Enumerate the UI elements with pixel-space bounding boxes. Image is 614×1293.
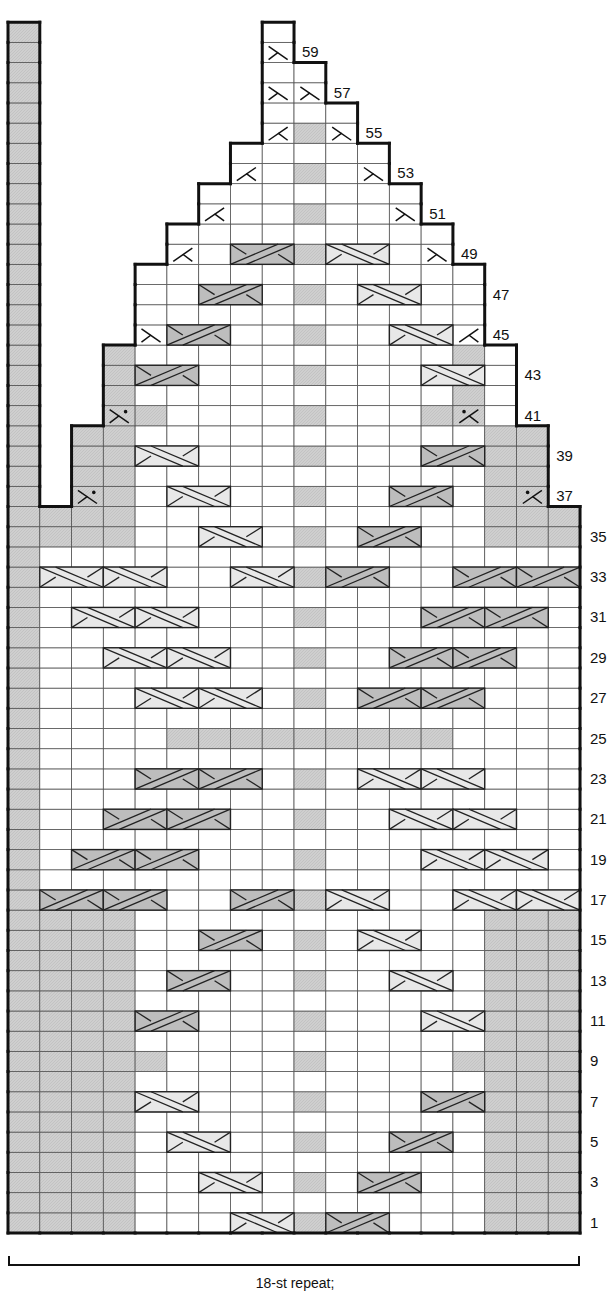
knit-cell bbox=[230, 345, 262, 365]
row-label-9: 9 bbox=[590, 1052, 598, 1069]
purl-cell bbox=[8, 930, 40, 950]
knit-cell bbox=[199, 345, 231, 365]
knit-cell bbox=[516, 688, 548, 708]
knit-cell bbox=[230, 224, 262, 244]
right-cross-cable-icon bbox=[326, 244, 390, 264]
knit-cell bbox=[358, 1031, 390, 1051]
knit-cell bbox=[516, 809, 548, 829]
knit-cell bbox=[40, 668, 72, 688]
knit-cell bbox=[262, 607, 294, 627]
purl-cell bbox=[8, 1132, 40, 1152]
knit-cell bbox=[262, 587, 294, 607]
purl-cell bbox=[8, 285, 40, 305]
row-label-5: 5 bbox=[590, 1133, 598, 1150]
purl-cell bbox=[294, 527, 326, 547]
knit-cell bbox=[262, 163, 294, 183]
left-cross-cable-icon bbox=[516, 567, 580, 587]
knit-cell bbox=[262, 507, 294, 527]
knit-cell bbox=[326, 628, 358, 648]
knit-cell bbox=[548, 587, 580, 607]
knit-cell bbox=[389, 1112, 421, 1132]
purl-cell bbox=[8, 991, 40, 1011]
purl-cell bbox=[103, 507, 135, 527]
left-cross-cable-icon bbox=[389, 648, 453, 668]
left-cross-cable-icon bbox=[135, 850, 199, 870]
knit-cell bbox=[135, 1132, 167, 1152]
knit-cell bbox=[294, 1193, 326, 1213]
purl-cell bbox=[40, 930, 72, 950]
knit-cell bbox=[389, 991, 421, 1011]
knit-cell bbox=[167, 345, 199, 365]
purl-cell bbox=[516, 1132, 548, 1152]
knit-cell bbox=[358, 486, 390, 506]
knit-cell bbox=[262, 991, 294, 1011]
knit-cell bbox=[167, 264, 199, 284]
knit-cell bbox=[135, 305, 167, 325]
left-cross-cable-icon bbox=[199, 769, 263, 789]
knit-cell bbox=[389, 224, 421, 244]
purl-cell bbox=[103, 950, 135, 970]
knit-cell bbox=[262, 769, 294, 789]
purl-cell bbox=[103, 345, 135, 365]
knit-cell bbox=[326, 446, 358, 466]
knit-cell bbox=[230, 1011, 262, 1031]
knit-cell bbox=[199, 264, 231, 284]
knit-cell bbox=[262, 950, 294, 970]
knit-cell bbox=[294, 1031, 326, 1051]
knit-cell bbox=[167, 1152, 199, 1172]
knit-cell bbox=[326, 688, 358, 708]
row-label-39: 39 bbox=[556, 447, 573, 464]
knit-cell bbox=[358, 668, 390, 688]
purl-cell bbox=[421, 729, 453, 749]
purl-cell bbox=[72, 1031, 104, 1051]
knit-cell bbox=[358, 749, 390, 769]
knit-cell bbox=[72, 587, 104, 607]
knit-cell bbox=[262, 385, 294, 405]
knit-cell bbox=[135, 1193, 167, 1213]
purl-cell bbox=[516, 1112, 548, 1132]
purl-cell bbox=[548, 1072, 580, 1092]
knit-cell bbox=[358, 426, 390, 446]
knit-cell bbox=[167, 870, 199, 890]
knit-cell bbox=[167, 1031, 199, 1051]
right-cross-cable-icon bbox=[453, 890, 517, 910]
knit-cell bbox=[199, 1193, 231, 1213]
purl-cell bbox=[294, 607, 326, 627]
knit-cell bbox=[199, 507, 231, 527]
purl-cell bbox=[485, 1092, 517, 1112]
knit-cell bbox=[389, 708, 421, 728]
knit-cell bbox=[135, 1031, 167, 1051]
knit-cell bbox=[326, 345, 358, 365]
knit-cell bbox=[199, 870, 231, 890]
knit-cell bbox=[103, 829, 135, 849]
knit-cell bbox=[485, 829, 517, 849]
knit-cell bbox=[167, 1112, 199, 1132]
knit-cell bbox=[516, 668, 548, 688]
purl-cell bbox=[72, 1152, 104, 1172]
purl-cell bbox=[485, 446, 517, 466]
purl-cell bbox=[326, 729, 358, 749]
row-label-21: 21 bbox=[590, 810, 607, 827]
knit-cell bbox=[72, 829, 104, 849]
purl-cell bbox=[103, 1172, 135, 1192]
purl-cell bbox=[8, 446, 40, 466]
purl-cell bbox=[294, 769, 326, 789]
knit-cell bbox=[262, 971, 294, 991]
knit-cell bbox=[389, 850, 421, 870]
knit-cell bbox=[548, 607, 580, 627]
right-cross-cable-icon bbox=[453, 809, 517, 829]
knit-cell bbox=[485, 385, 517, 405]
knit-cell bbox=[199, 426, 231, 446]
knit-cell bbox=[453, 668, 485, 688]
row-label-3: 3 bbox=[590, 1173, 598, 1190]
knit-cell bbox=[485, 365, 517, 385]
knit-cell bbox=[199, 890, 231, 910]
knit-cell bbox=[40, 809, 72, 829]
row-label-57: 57 bbox=[334, 84, 351, 101]
knit-cell bbox=[40, 850, 72, 870]
knit-cell bbox=[262, 486, 294, 506]
knit-cell bbox=[262, 809, 294, 829]
row-label-59: 59 bbox=[302, 43, 319, 60]
knit-cell bbox=[167, 1051, 199, 1071]
knit-cell bbox=[326, 950, 358, 970]
